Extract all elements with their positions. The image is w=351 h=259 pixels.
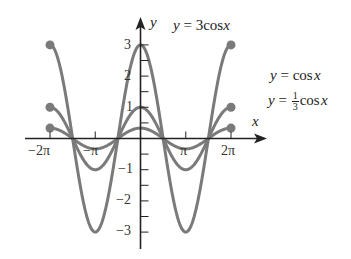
endpoint-marker (45, 103, 54, 112)
endpoint-marker (45, 124, 54, 133)
x-tick-label-neg2pi: −2π (28, 143, 50, 159)
chart: y x y = 3cosx y = cos x y = 13cos x −2π … (0, 0, 351, 259)
y-tick-label-1: 1 (126, 99, 133, 115)
y-axis-label: y (150, 14, 157, 31)
x-tick-label-negpi: −π (83, 143, 98, 159)
y-tick-label-neg1: −1 (118, 161, 133, 177)
endpoint-marker (227, 124, 236, 133)
y-tick-label-neg3: −3 (116, 223, 131, 239)
endpoint-marker (227, 40, 236, 49)
x-axis-label: x (252, 113, 259, 130)
endpoint-marker (227, 103, 236, 112)
plot-area (0, 0, 351, 259)
label-3cos: y = 3cosx (173, 17, 230, 34)
label-third-cos: y = 13cos x (268, 91, 328, 112)
x-tick-label-2pi: 2π (221, 143, 235, 159)
x-tick-label-pi: π (180, 143, 187, 159)
endpoint-marker (45, 40, 54, 49)
y-tick-label-3: 3 (124, 37, 131, 53)
y-tick-label-neg2: −2 (116, 192, 131, 208)
y-tick-label-2: 2 (124, 68, 131, 84)
label-cos: y = cos x (270, 67, 321, 84)
